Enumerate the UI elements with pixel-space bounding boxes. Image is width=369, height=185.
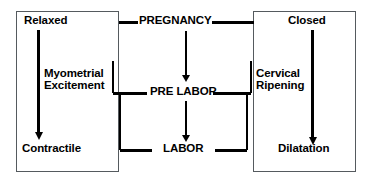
down-arrow-icon-cervix [311,30,314,138]
stage-label-pre-labor: PRE LABOR [150,85,217,97]
connector-pregnancy-right [212,21,254,24]
edge-tick-left-prelabor [112,61,114,93]
down-arrow-icon-pregnancy-to-prelabor [185,31,187,76]
down-arrow-icon-prelabor-to-labor [185,101,187,136]
cervical-ripening-line1: Cervical [256,67,300,79]
edge-tick-left-labor [119,92,121,150]
stage-label-pregnancy: PREGNANCY [139,14,212,26]
myometrial-excitement-line1: Myometrial [44,67,104,79]
down-arrow-icon-myometrium [37,30,40,133]
connector-pregnancy-left [119,21,138,24]
diagram-canvas: Relaxed Myometrial Excitement Contractil… [0,0,369,185]
edge-tick-right-labor [246,92,248,150]
myometrium-top-label: Relaxed [24,14,67,26]
myometrium-bottom-label: Contractile [22,142,81,154]
cervical-ripening-label: Cervical Ripening [256,67,304,92]
cervix-top-label: Closed [288,14,326,26]
cervix-bottom-label: Dilatation [278,142,329,154]
cervical-ripening-line2: Ripening [256,79,304,91]
myometrial-excitement-label: Myometrial Excitement [44,67,104,92]
edge-tick-right-prelabor [250,61,252,93]
connector-labor-left [120,149,152,152]
connector-labor-right [215,149,247,152]
stage-label-labor: LABOR [163,142,203,154]
myometrial-excitement-line2: Excitement [44,79,104,91]
